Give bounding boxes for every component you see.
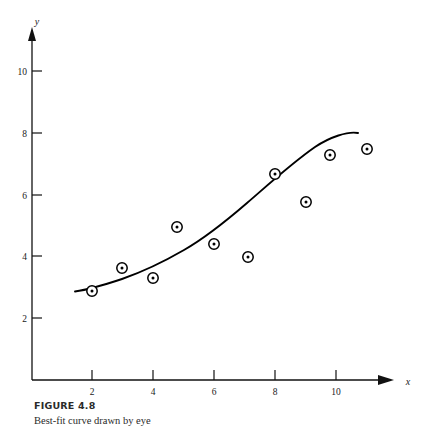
figure-caption: FIGURE 4.8 Best-fit curve drawn by eye bbox=[34, 400, 364, 427]
x-tick-label-10: 10 bbox=[331, 387, 341, 397]
y-axis-arrowhead bbox=[28, 27, 36, 41]
x-tick-label-8: 8 bbox=[273, 387, 278, 397]
data-point-marker bbox=[325, 150, 335, 160]
x-axis bbox=[32, 375, 394, 385]
data-point-marker bbox=[172, 222, 182, 232]
figure-caption-title: FIGURE 4.8 bbox=[34, 400, 364, 412]
data-points-group bbox=[87, 144, 372, 296]
x-tick-label-6: 6 bbox=[212, 387, 217, 397]
data-point-marker bbox=[148, 273, 158, 283]
x-tick-label-4: 4 bbox=[151, 387, 156, 397]
y-axis-ticks bbox=[32, 71, 42, 318]
data-point-marker bbox=[209, 239, 219, 249]
data-point-marker bbox=[243, 252, 253, 262]
x-axis-label: x bbox=[405, 376, 411, 387]
figure-container: 10 8 6 4 2 2 4 6 8 10 y x bbox=[0, 0, 434, 446]
y-axis bbox=[28, 27, 36, 380]
x-tick-label-2: 2 bbox=[90, 387, 95, 397]
x-axis-arrowhead bbox=[378, 375, 394, 385]
y-tick-label-4: 4 bbox=[22, 252, 27, 262]
y-tick-label-6: 6 bbox=[22, 191, 27, 201]
data-point-marker bbox=[117, 263, 127, 273]
y-tick-label-10: 10 bbox=[18, 67, 28, 77]
data-point-marker bbox=[270, 169, 280, 179]
y-tick-label-2: 2 bbox=[22, 314, 27, 324]
scatter-plot-chart: 10 8 6 4 2 2 4 6 8 10 y x bbox=[0, 0, 434, 446]
x-axis-ticks bbox=[92, 370, 336, 380]
y-tick-label-8: 8 bbox=[22, 129, 27, 139]
data-point-marker bbox=[362, 144, 372, 154]
data-point-marker bbox=[87, 286, 97, 296]
y-axis-label: y bbox=[34, 16, 40, 27]
data-point-marker bbox=[301, 197, 311, 207]
figure-caption-text: Best-fit curve drawn by eye bbox=[34, 414, 364, 427]
